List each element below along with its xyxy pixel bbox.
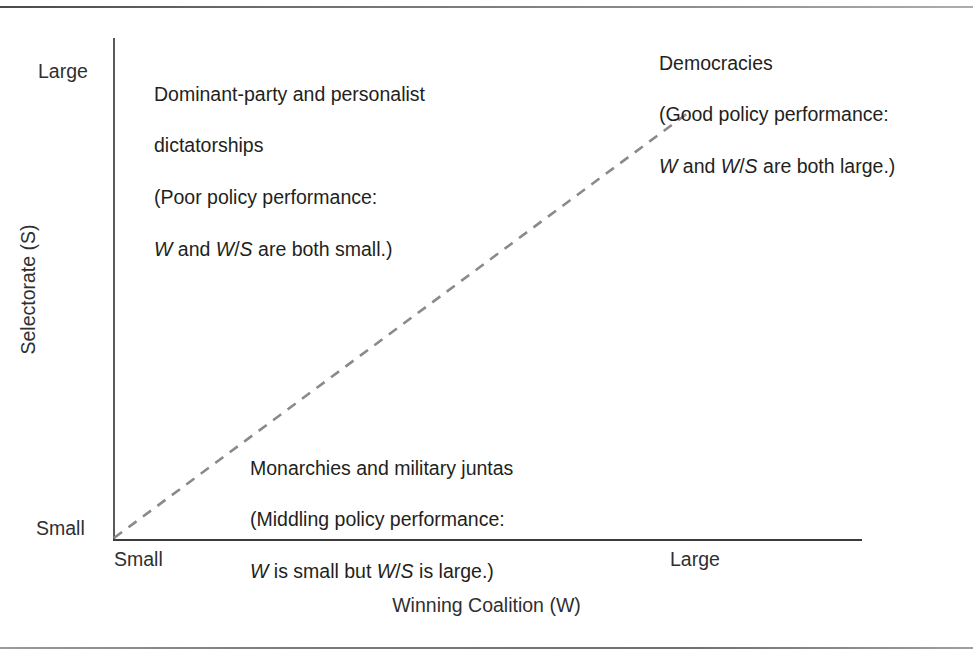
variable-w: W xyxy=(216,238,234,260)
annotation-text: are both small.) xyxy=(253,238,393,260)
annotation-democracies: Democracies (Good policy performance: W … xyxy=(659,25,895,206)
annotation-text: and xyxy=(677,155,720,177)
y-axis-title-suffix: ) xyxy=(17,224,39,231)
variable-s: S xyxy=(745,155,758,177)
annotation-dictatorships-line3: (Poor policy performance: xyxy=(154,185,425,211)
annotation-dictatorships-line2: dictatorships xyxy=(154,133,425,159)
variable-w: W xyxy=(721,155,739,177)
y-axis-title-variable: S xyxy=(17,231,39,244)
variable-w: W xyxy=(154,238,172,260)
page-rule-bottom xyxy=(0,647,973,649)
annotation-dictatorships-line4: W and W/S are both small.) xyxy=(154,237,425,263)
annotation-monarchies: Monarchies and military juntas (Middling… xyxy=(250,430,513,611)
annotation-text: is large.) xyxy=(414,560,494,582)
annotation-text: is small but xyxy=(268,560,376,582)
annotation-democracies-line1: Democracies xyxy=(659,51,895,77)
y-axis-title-prefix: Selectorate ( xyxy=(17,244,39,355)
annotation-democracies-line2: (Good policy performance: xyxy=(659,102,895,128)
annotation-monarchies-line3: W is small but W/S is large.) xyxy=(250,559,513,585)
y-tick-label-large: Large xyxy=(38,60,88,83)
y-tick-label-small: Small xyxy=(36,517,85,540)
annotation-monarchies-line1: Monarchies and military juntas xyxy=(250,456,513,482)
figure-container: Large Small Small Large Selectorate (S) … xyxy=(0,0,973,665)
variable-w: W xyxy=(250,560,268,582)
variable-s: S xyxy=(401,560,414,582)
annotation-dictatorships-line1: Dominant-party and personalist xyxy=(154,82,425,108)
x-axis-title-suffix: ) xyxy=(574,594,581,616)
y-axis-title: Selectorate (S) xyxy=(17,125,40,455)
x-tick-label-large: Large xyxy=(670,548,720,571)
variable-w: W xyxy=(659,155,677,177)
variable-w: W xyxy=(377,560,395,582)
annotation-democracies-line3: W and W/S are both large.) xyxy=(659,154,895,180)
page-rule-top xyxy=(0,6,973,8)
annotation-text: are both large.) xyxy=(758,155,896,177)
annotation-dictatorships: Dominant-party and personalist dictators… xyxy=(154,56,425,288)
x-axis-title-variable: W xyxy=(556,594,574,616)
annotation-monarchies-line2: (Middling policy performance: xyxy=(250,507,513,533)
x-tick-label-small: Small xyxy=(114,548,163,571)
variable-s: S xyxy=(240,238,253,260)
y-axis-line xyxy=(113,38,115,541)
annotation-text: and xyxy=(172,238,215,260)
